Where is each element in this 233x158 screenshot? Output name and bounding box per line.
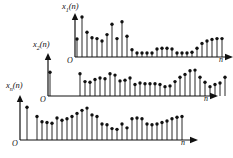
panel-xn-x-label: n	[181, 139, 185, 147]
stem-marker	[65, 117, 68, 120]
stem-marker	[150, 123, 153, 126]
panel-xn-y-label-tail: (n)	[13, 80, 23, 90]
stem-marker	[60, 119, 63, 122]
stem-marker	[85, 106, 88, 109]
y-axis-arrowhead	[17, 95, 23, 102]
stem-marker	[165, 119, 168, 122]
x-axis-arrowhead	[190, 137, 198, 143]
stem-marker	[155, 122, 158, 125]
stem-marker	[120, 122, 123, 125]
stem-marker	[95, 115, 98, 118]
stem-marker	[40, 120, 43, 123]
stem-marker	[70, 115, 73, 118]
stem-marker	[90, 113, 93, 116]
stem-marker	[125, 126, 128, 129]
stem-marker	[35, 115, 38, 118]
stem-marker	[180, 115, 183, 118]
stem-marker	[75, 112, 78, 115]
stem-marker	[130, 117, 133, 120]
stem-marker	[115, 128, 118, 131]
stem-marker	[100, 122, 103, 125]
stem-marker	[45, 121, 48, 124]
stem-marker	[105, 123, 108, 126]
stem-marker	[25, 106, 28, 109]
panel-xn-canvas	[0, 0, 233, 158]
stem-marker	[135, 116, 138, 119]
stem-marker	[170, 117, 173, 120]
stem-marker	[145, 122, 148, 125]
stem-marker	[110, 127, 113, 130]
stem-marker	[160, 121, 163, 124]
stem-marker	[50, 122, 53, 125]
stem-marker	[80, 109, 83, 112]
stem-marker	[175, 116, 178, 119]
panel-xn-origin-label: O	[12, 140, 18, 148]
stem-marker	[55, 116, 58, 119]
panel-xn-y-label: xn(n)	[6, 81, 23, 92]
panel-xn-stems	[17, 95, 198, 143]
stem-marker	[140, 117, 143, 120]
stem-plot-figure: x1(n) O n x2(n) O n xn(n) O n	[0, 0, 233, 158]
